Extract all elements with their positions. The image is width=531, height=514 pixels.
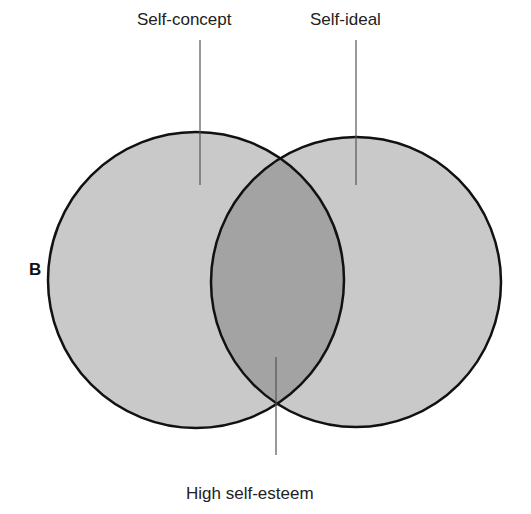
venn-diagram: [0, 0, 531, 514]
panel-label: B: [29, 260, 41, 280]
high-self-esteem-label: High self-esteem: [186, 484, 314, 504]
self-ideal-label: Self-ideal: [310, 10, 381, 30]
self-concept-label: Self-concept: [137, 10, 232, 30]
